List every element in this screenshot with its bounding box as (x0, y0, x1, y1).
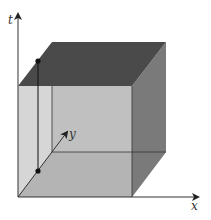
cube-diagram: t x y (0, 0, 211, 220)
back-wall (52, 86, 132, 152)
y-axis-label: y (68, 127, 76, 141)
bottom-point (35, 168, 40, 173)
x-axis-label: x (191, 199, 198, 213)
top-point (35, 58, 40, 63)
t-axis-label: t (8, 13, 13, 27)
